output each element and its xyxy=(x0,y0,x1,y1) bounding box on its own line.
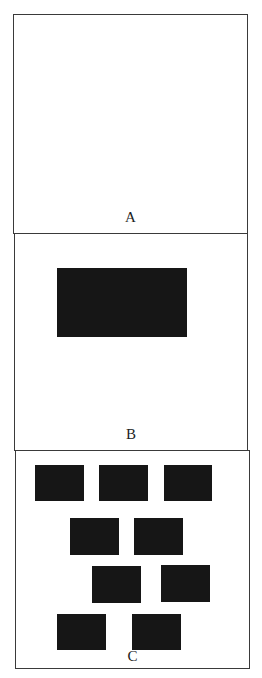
panel-c-label: C xyxy=(16,649,249,664)
small-rectangle xyxy=(132,614,181,650)
small-rectangle xyxy=(99,465,148,501)
panel-b-label: B xyxy=(15,427,247,442)
small-rectangle xyxy=(57,614,106,650)
panel-b: B xyxy=(14,233,248,451)
small-rectangle xyxy=(134,518,183,555)
small-rectangle xyxy=(35,465,84,501)
panel-c: C xyxy=(15,450,250,669)
panel-a-label: A xyxy=(14,210,247,225)
small-rectangle xyxy=(70,518,119,555)
small-rectangle xyxy=(92,566,141,603)
panel-a: A xyxy=(13,14,248,234)
single-large-rectangle xyxy=(57,268,187,337)
small-rectangle xyxy=(161,565,210,602)
small-rectangle xyxy=(164,465,212,501)
